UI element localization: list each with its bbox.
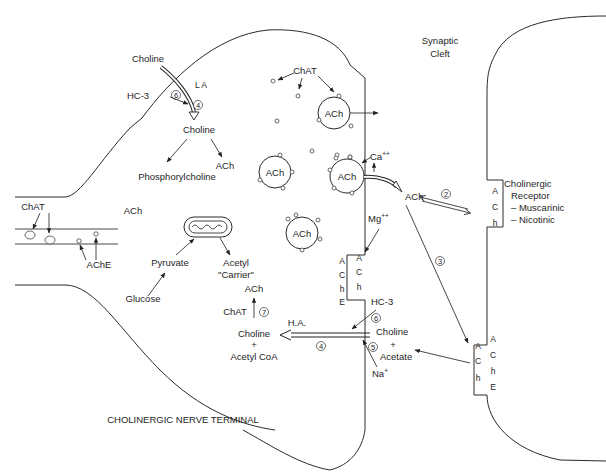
- phosphorylcholine-label: Phosphorylcholine: [138, 171, 216, 182]
- ca-label: Ca++: [370, 150, 390, 162]
- svg-text:h: h: [340, 284, 345, 294]
- na-label: Na+: [372, 367, 388, 379]
- vesicle-4: ACh: [286, 213, 322, 252]
- axon-ache-dot-1: [77, 239, 81, 243]
- svg-text:A: A: [492, 186, 498, 196]
- cholinergic-synapse-diagram: ChAT ACh AChE Synaptic Cleft Choline L A…: [0, 0, 606, 475]
- svg-text:h: h: [493, 218, 498, 228]
- axon-ach-label: ACh: [124, 205, 142, 216]
- svg-text:A: A: [339, 256, 345, 266]
- presynaptic-ache-outer: A C h E: [339, 256, 345, 307]
- svg-text:5: 5: [371, 343, 375, 352]
- step-3: 3: [436, 257, 445, 266]
- mitochondrion: [184, 217, 232, 237]
- svg-text:7: 7: [262, 308, 266, 317]
- step-7: 7: [260, 308, 269, 317]
- ach-cleft-label: ACh: [405, 191, 423, 202]
- acetyl-carrier-label-2: "Carrier": [218, 269, 254, 280]
- vesicle-4-label: ACh: [293, 228, 311, 239]
- axon-chat-label: ChAT: [21, 201, 45, 212]
- vesicle-chat-label: ChAT: [293, 65, 317, 76]
- svg-text:4: 4: [196, 101, 200, 110]
- svg-text:h: h: [491, 366, 496, 376]
- acetate-plus: +: [390, 339, 396, 350]
- svg-text:h: h: [476, 373, 481, 383]
- synth-ach-label: ACh: [245, 283, 263, 294]
- presynaptic-ache-inner: A C h: [356, 253, 362, 292]
- choline-inside-label: Choline: [183, 124, 215, 135]
- svg-text:6: 6: [374, 314, 378, 323]
- axon-chat-vesicle-2: [45, 236, 55, 244]
- svg-text:E: E: [490, 382, 496, 392]
- svg-text:6: 6: [174, 91, 178, 100]
- vesicle-1-label: ACh: [325, 108, 343, 119]
- vesicle-3-label: ACh: [338, 171, 356, 182]
- choline-cleft-label: Choline: [376, 326, 408, 337]
- synth-plus: +: [251, 339, 257, 350]
- receptor-type-nicotinic: – Nicotinic: [511, 214, 555, 225]
- svg-text:2: 2: [444, 190, 448, 199]
- acetyl-carrier-label-1: Acetyl: [223, 257, 249, 268]
- acetyl-coa-label: Acetyl CoA: [231, 351, 279, 362]
- synth-chat-label: ChAT: [223, 306, 247, 317]
- synth-choline-label: Choline: [238, 328, 270, 339]
- choline-outside-label: Choline: [132, 53, 164, 64]
- vesicle-2-label: ACh: [266, 167, 284, 178]
- step-2: 2: [442, 190, 451, 199]
- receptor-title-1: Cholinergic: [504, 178, 552, 189]
- la-label: L A: [195, 80, 207, 90]
- svg-text:A: A: [490, 334, 496, 344]
- ha-label: H.A.: [288, 317, 306, 328]
- receptor-type-muscarinic: – Muscarinic: [511, 202, 565, 213]
- receptor-title-2: Receptor: [511, 190, 550, 201]
- svg-text:C: C: [356, 267, 362, 277]
- acetate-label: Acetate: [380, 351, 412, 362]
- vesicle-1: ACh: [317, 94, 353, 129]
- vesicle-3: ACh: [328, 155, 364, 195]
- postsynaptic-ache-outer: A C h E: [490, 334, 496, 392]
- svg-text:h: h: [357, 282, 362, 292]
- presynaptic-membrane: [15, 30, 365, 470]
- svg-text:E: E: [339, 297, 345, 307]
- choline-uptake-top: Choline L A HC-3 6 4 Choline Phosphorylc…: [127, 53, 234, 182]
- ach-from-choline-label: ACh: [216, 160, 234, 171]
- svg-text:C: C: [492, 202, 498, 212]
- axon-chat-vesicle-1: [25, 231, 35, 239]
- svg-text:A: A: [475, 341, 481, 351]
- hc3-top-label: HC-3: [127, 90, 149, 101]
- step-4-bottom: 4: [317, 342, 326, 351]
- pyruvate-label: Pyruvate: [151, 257, 189, 268]
- reuptake: ACh ChAT 7 Choline + Acetyl CoA H.A. 4 H…: [223, 283, 412, 379]
- hc3-bottom-label: HC-3: [371, 296, 393, 307]
- axon-lines: ChAT ACh AChE: [15, 201, 142, 270]
- svg-text:C: C: [475, 356, 481, 366]
- svg-text:3: 3: [438, 257, 442, 266]
- svg-text:A: A: [356, 253, 362, 263]
- glucose-label: Glucose: [126, 293, 161, 304]
- svg-text:C: C: [490, 350, 496, 360]
- postsynaptic-membrane: [474, 16, 606, 461]
- step-4-top: 4: [194, 101, 203, 110]
- svg-text:C: C: [339, 270, 345, 280]
- axon-ache-label: AChE: [87, 259, 112, 270]
- synaptic-cleft-label-2: Cleft: [430, 48, 450, 59]
- vesicle-2: ACh: [258, 153, 294, 190]
- step-5: 5: [369, 343, 378, 352]
- mg-label: Mg++: [368, 212, 389, 224]
- axon-ache-dot-2: [94, 232, 98, 236]
- svg-text:4: 4: [319, 342, 323, 351]
- postsynaptic-ache-inner: A C h: [475, 341, 481, 383]
- vesicles: ChAT ACh ACh: [258, 65, 378, 252]
- nerve-terminal-label: CHOLINERGIC NERVE TERMINAL: [107, 414, 259, 425]
- synaptic-cleft-label-1: Synaptic: [422, 35, 459, 46]
- step-6-bottom: 6: [372, 314, 381, 323]
